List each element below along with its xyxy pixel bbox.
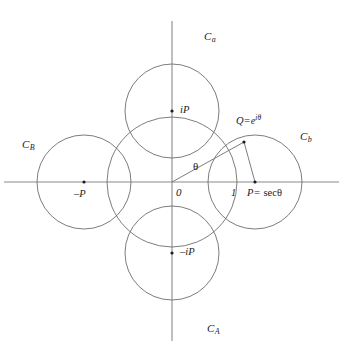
label-point-minus-iP: –iP bbox=[180, 247, 195, 258]
label-circle-c-B: CB bbox=[22, 139, 35, 152]
label-circle-c-B-sub: B bbox=[29, 143, 34, 152]
label-point-P-secant: P=secθ bbox=[247, 188, 282, 199]
label-point-P-base: P= bbox=[247, 187, 261, 198]
label-circle-c-a: Ca bbox=[204, 31, 216, 44]
label-secant-theta: secθ bbox=[261, 187, 282, 198]
label-circle-c-A-sub: A bbox=[214, 327, 219, 336]
label-origin: 0 bbox=[176, 187, 182, 198]
geometry-svg bbox=[0, 0, 343, 357]
figure-canvas: Ca Cb CB CA iP –iP –P P=secθ Q=eiθ 0 1 θ bbox=[0, 0, 343, 357]
dot-point-minus-iP bbox=[170, 251, 173, 254]
dot-point-iP bbox=[170, 109, 173, 112]
label-circle-c-b-sub: b bbox=[307, 135, 312, 144]
dot-point-minus-P bbox=[82, 180, 85, 183]
label-angle-theta: θ bbox=[193, 161, 198, 172]
dot-point-Q bbox=[242, 140, 245, 143]
dot-point-P bbox=[253, 180, 256, 183]
label-circle-c-A: CA bbox=[207, 323, 220, 336]
segments-group bbox=[172, 142, 255, 182]
label-point-Q: Q=eiθ bbox=[236, 114, 261, 127]
label-point-iP: iP bbox=[180, 105, 189, 116]
label-circle-c-b: Cb bbox=[300, 131, 312, 144]
label-point-minus-P: –P bbox=[74, 189, 86, 200]
label-unit-one: 1 bbox=[231, 188, 236, 199]
axes-group bbox=[4, 21, 339, 341]
label-point-Q-exponent: iθ bbox=[255, 113, 261, 122]
label-circle-c-a-sub: a bbox=[211, 35, 216, 44]
tangent-Q-to-P-segment bbox=[244, 142, 255, 182]
label-point-Q-base: Q=e bbox=[236, 115, 255, 126]
